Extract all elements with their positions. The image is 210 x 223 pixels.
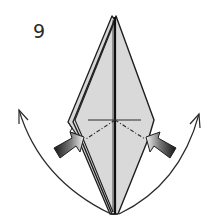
push-arrow-right (146, 132, 176, 158)
paper-shape (68, 16, 154, 214)
push-arrow-right-icon (146, 132, 176, 158)
push-arrow-left (54, 132, 84, 158)
origami-diagram (0, 0, 210, 223)
paper-front-layer (73, 16, 154, 214)
push-arrow-left-icon (54, 132, 84, 158)
